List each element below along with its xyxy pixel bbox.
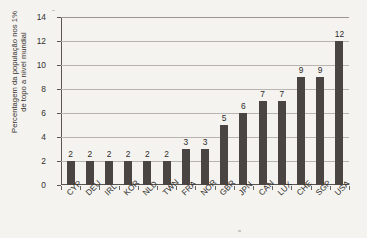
bar-value-label: 5 [222, 113, 227, 123]
bar-value-label: 2 [164, 149, 169, 159]
y-axis-title: Percentagem da população nos 1% de topo … [4, 0, 36, 152]
bar-nor[interactable]: 3 [201, 17, 209, 185]
bar-value-label: 7 [260, 89, 265, 99]
bar-value-label: 3 [183, 137, 188, 147]
scan-speck [52, 10, 55, 11]
bar-value-label: 2 [68, 149, 73, 159]
bar-usa[interactable]: 12 [335, 17, 343, 185]
y-tick-label: 10 [26, 60, 46, 70]
bar-nld[interactable]: 2 [143, 17, 151, 185]
y-tick-label: 12 [26, 36, 46, 46]
bar-che[interactable]: 9 [297, 17, 305, 185]
y-tick-label: 4 [26, 132, 46, 142]
bar-rect [239, 113, 247, 185]
bar-value-label: 6 [241, 101, 246, 111]
bar-kor[interactable]: 2 [124, 17, 132, 185]
y-tick-label: 6 [26, 108, 46, 118]
y-tick-label: 0 [26, 180, 46, 190]
bar-rect [220, 125, 228, 185]
bar-rect [316, 77, 324, 185]
bar-value-label: 7 [279, 89, 284, 99]
bar-deu[interactable]: 2 [86, 17, 94, 185]
bar-twn[interactable]: 2 [163, 17, 171, 185]
bar-value-label: 3 [203, 137, 208, 147]
bar-rect [182, 149, 190, 185]
bar-lux[interactable]: 7 [278, 17, 286, 185]
bars-layer: 2222223356779912 [61, 17, 349, 185]
x-tick-mark [119, 186, 120, 190]
bar-rect [259, 101, 267, 185]
x-tick-mark [61, 186, 62, 190]
bar-jpn[interactable]: 6 [239, 17, 247, 185]
y-tick-label: 2 [26, 156, 46, 166]
bar-rect [278, 101, 286, 185]
bar-rect [297, 77, 305, 185]
y-tick-label: 8 [26, 84, 46, 94]
bar-value-label: 2 [126, 149, 131, 159]
bar-chart-figure: Percentagem da população nos 1% de topo … [0, 0, 367, 238]
bar-rect [335, 41, 343, 185]
bar-can[interactable]: 7 [259, 17, 267, 185]
bar-gbr[interactable]: 5 [220, 17, 228, 185]
scan-speck [238, 230, 241, 232]
bar-fra[interactable]: 3 [182, 17, 190, 185]
bar-value-label: 2 [145, 149, 150, 159]
bar-sgp[interactable]: 9 [316, 17, 324, 185]
bar-value-label: 12 [335, 29, 344, 39]
bar-value-label: 9 [318, 65, 323, 75]
bar-value-label: 2 [87, 149, 92, 159]
bar-cyp[interactable]: 2 [67, 17, 75, 185]
y-tick-label: 14 [26, 12, 46, 22]
bar-value-label: 9 [299, 65, 304, 75]
bar-value-label: 2 [107, 149, 112, 159]
bar-rect [201, 149, 209, 185]
bar-irl[interactable]: 2 [105, 17, 113, 185]
